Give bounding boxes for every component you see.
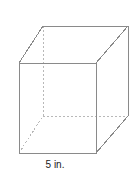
diagram-background bbox=[0, 0, 138, 179]
dimension-label-bottom: 5 in. bbox=[0, 159, 110, 171]
cube-figure-container: A 5 in. bbox=[0, 0, 138, 179]
cube-drawing bbox=[0, 0, 138, 179]
